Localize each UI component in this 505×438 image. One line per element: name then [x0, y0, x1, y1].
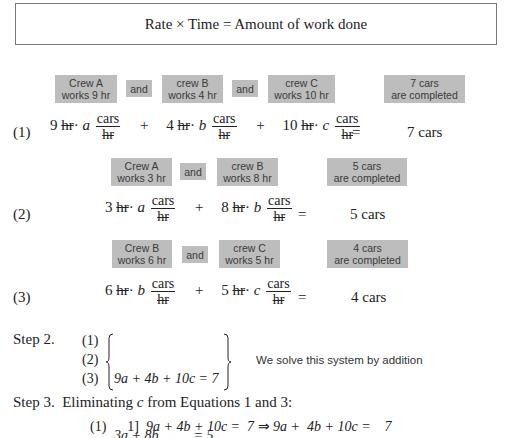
equation-2-rhs: 5 cars: [350, 206, 385, 223]
box-and: and: [232, 80, 258, 97]
box-and: and: [180, 163, 206, 180]
plus: +: [195, 282, 203, 298]
box-line: 7 cars: [410, 77, 439, 89]
box-line: crew C: [285, 77, 318, 89]
formula-title-box: Rate × Time = Amount of work done: [15, 3, 497, 45]
box-crew-b-6hr: Crew B works 6 hr: [112, 240, 172, 268]
text: from Equations 1 and 3:: [147, 394, 292, 410]
equation-2-label: (2): [13, 206, 31, 223]
var: c: [323, 117, 330, 133]
system-equation-numbers: (1) (2) (3): [82, 331, 98, 388]
unit-hr-cancelled: hr: [233, 282, 246, 298]
system-row: 9a + 4b + 10c = 7: [114, 369, 219, 388]
coef: 6: [105, 282, 113, 298]
step-2-label: Step 2.: [13, 331, 55, 348]
fraction-cars-per-hr: carshr: [151, 276, 176, 307]
fraction-cars-per-hr: carshr: [266, 276, 291, 307]
denominator: hr: [151, 292, 176, 307]
right-equation: 9a + 4b + 10c = 7: [273, 419, 392, 434]
fraction-cars-per-hr: carshr: [151, 193, 176, 224]
numerator: cars: [266, 276, 291, 292]
row-number: (2): [82, 350, 98, 369]
box-line: and: [186, 249, 204, 261]
var: a: [83, 117, 91, 133]
left-equation: 9a + 4b + 10c = 7: [146, 419, 254, 434]
box-line: crew B: [176, 77, 208, 89]
equation-3: 6 hr· b carshr + 5 hr· c carshr: [105, 276, 293, 307]
elimination-line-1: (1) 1] 9a + 4b + 10c = 7 ⇒ 9a + 4b + 10c…: [90, 418, 392, 435]
unit-hr-cancelled: hr: [116, 282, 129, 298]
equation-1-rhs: 7 cars: [407, 124, 442, 141]
box-line: Crew A: [125, 160, 159, 172]
equation-1-label: (1): [13, 124, 31, 141]
box-crew-a-3hr: Crew A works 3 hr: [111, 158, 172, 186]
box-line: and: [236, 83, 254, 95]
numerator: cars: [212, 111, 237, 127]
row-number: (3): [82, 369, 98, 388]
right-brace-icon: [222, 333, 232, 391]
var: c: [254, 282, 261, 298]
step-3-heading: Step 3. Eliminating c from Equations 1 a…: [13, 394, 292, 411]
formula-title: Rate × Time = Amount of work done: [145, 16, 367, 33]
box-and: and: [126, 80, 152, 97]
text: Eliminating: [62, 394, 133, 410]
box-line: works 3 hr: [117, 172, 165, 184]
plus: +: [256, 117, 264, 133]
box-line: and: [184, 166, 202, 178]
denominator: hr: [96, 127, 121, 142]
fraction-cars-per-hr: carshr: [212, 111, 237, 142]
fraction-cars-per-hr: carshr: [267, 193, 292, 224]
box-line: Crew B: [125, 242, 159, 254]
coef: 9: [50, 117, 58, 133]
coef: 4: [166, 117, 174, 133]
numerator: cars: [267, 193, 292, 209]
var: c: [137, 394, 144, 410]
box-crew-c-10hr: crew C works 10 hr: [268, 75, 335, 103]
box-line: crew C: [233, 242, 266, 254]
unit-hr-cancelled: hr: [61, 117, 74, 133]
denominator: hr: [267, 209, 292, 224]
box-line: and: [130, 83, 148, 95]
equation-3-label: (3): [13, 289, 31, 306]
numerator: cars: [151, 276, 176, 292]
equation-3-rhs: 4 cars: [351, 289, 386, 306]
coef: 3: [105, 199, 113, 215]
coef: 10: [283, 117, 298, 133]
step-3-label: Step 3.: [13, 394, 55, 410]
box-line: are completed: [334, 172, 401, 184]
equals-sign: =: [298, 289, 306, 306]
multiplier: 1]: [127, 419, 139, 434]
coef: 5: [221, 282, 229, 298]
equation-1: 9 hr· a carshr + 4 hr· b carshr + 10 hr·…: [50, 111, 362, 142]
equals-sign: =: [352, 124, 360, 141]
box-result-4-cars: 4 cars are completed: [327, 240, 408, 268]
plus: +: [140, 117, 148, 133]
box-crew-a-9hr: Crew A works 9 hr: [55, 75, 117, 103]
box-line: works 8 hr: [223, 172, 271, 184]
box-line: works 9 hr: [62, 89, 110, 101]
denominator: hr: [212, 127, 237, 142]
fraction-cars-per-hr: carshr: [96, 111, 121, 142]
unit-hr-cancelled: hr: [178, 117, 191, 133]
box-line: 4 cars: [353, 242, 382, 254]
equation-2: 3 hr· a carshr + 8 hr· b carshr: [105, 193, 294, 224]
implies-arrow-icon: ⇒: [258, 419, 270, 434]
plus: +: [195, 199, 203, 215]
unit-hr-cancelled: hr: [116, 199, 129, 215]
box-line: crew B: [231, 160, 263, 172]
box-line: works 4 hr: [168, 89, 216, 101]
denominator: hr: [151, 209, 176, 224]
box-crew-b-8hr: crew B works 8 hr: [217, 158, 278, 186]
row-number: (1): [90, 419, 106, 434]
box-result-7-cars: 7 cars are completed: [384, 75, 465, 103]
unit-hr-cancelled: hr: [233, 199, 246, 215]
system-note: We solve this system by addition: [256, 354, 423, 366]
box-line: works 5 hr: [225, 254, 273, 266]
var: b: [199, 117, 207, 133]
numerator: cars: [151, 193, 176, 209]
row-number: (1): [82, 331, 98, 350]
var: b: [254, 199, 262, 215]
box-line: works 10 hr: [274, 89, 328, 101]
box-crew-b-4hr: crew B works 4 hr: [162, 75, 223, 103]
var: a: [138, 199, 146, 215]
